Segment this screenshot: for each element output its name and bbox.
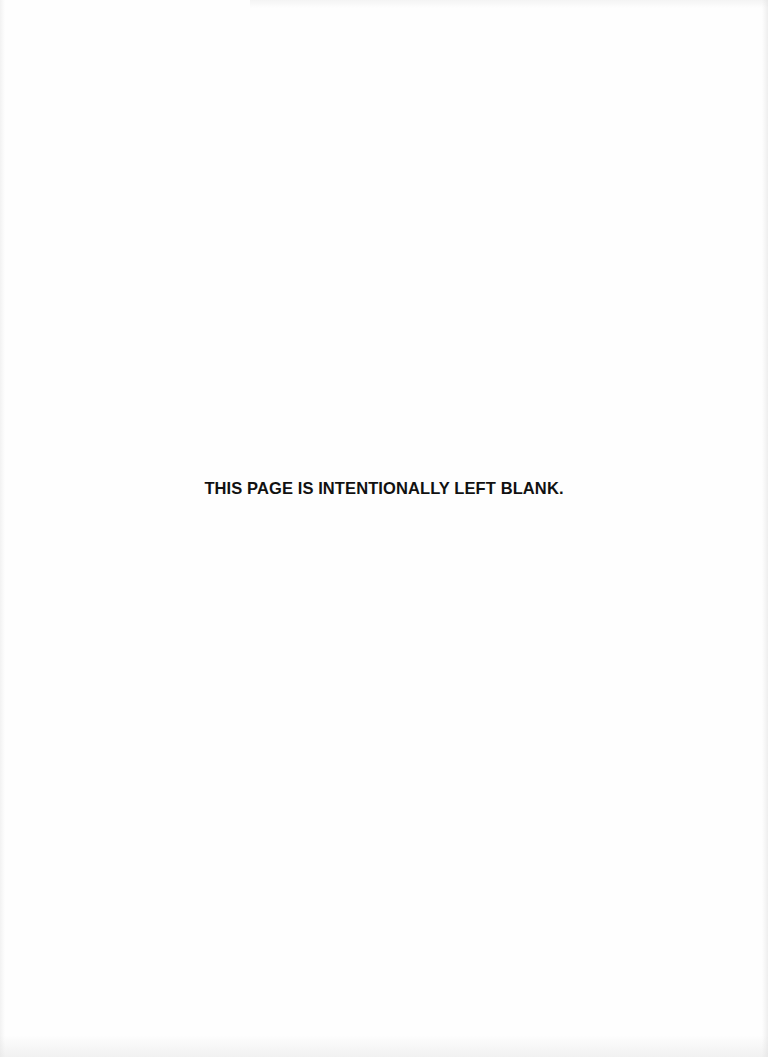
- scan-bleed-through-top: [250, 0, 768, 8]
- scan-edge-right: [762, 0, 768, 1057]
- scan-bleed-through-bottom: [0, 1035, 768, 1057]
- document-page: THIS PAGE IS INTENTIONALLY LEFT BLANK.: [0, 0, 768, 1057]
- blank-page-notice: THIS PAGE IS INTENTIONALLY LEFT BLANK.: [0, 478, 768, 498]
- scan-edge-left: [0, 0, 5, 1057]
